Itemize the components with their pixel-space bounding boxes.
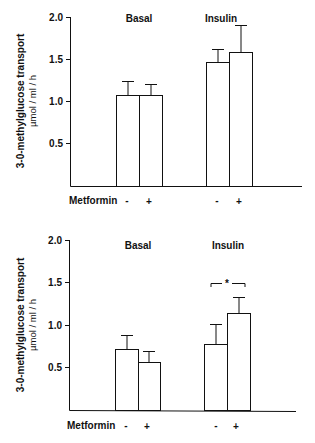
ytick-2.0: 2.0 bbox=[48, 235, 62, 246]
ytick-2.0: 2.0 bbox=[49, 12, 63, 23]
xtick-insulin-plus: + bbox=[236, 196, 242, 207]
y-axis-title: 3-0-methylglucose transport bbox=[15, 257, 26, 392]
x-axis-title: Metformin bbox=[69, 195, 117, 206]
xtick-basal-minus: - bbox=[125, 195, 128, 206]
bottom-insulin-bars bbox=[205, 298, 251, 411]
top-chart-axes bbox=[66, 17, 302, 187]
xtick-insulin-minus: - bbox=[215, 195, 218, 206]
xtick-insulin-minus: - bbox=[214, 420, 217, 431]
top-insulin-bars bbox=[207, 26, 253, 187]
group-label-insulin: Insulin bbox=[205, 13, 237, 24]
y-axis-title: 3-0-methylglucose transport bbox=[15, 33, 26, 168]
bottom-chart-axes bbox=[65, 240, 296, 412]
bottom-basal-bars bbox=[116, 336, 161, 411]
xtick-basal-plus: + bbox=[146, 196, 152, 207]
ytick-1.5: 1.5 bbox=[49, 54, 63, 65]
xtick-basal-plus: + bbox=[144, 421, 150, 432]
ytick-1.5: 1.5 bbox=[48, 277, 62, 288]
y-axis-units: µmol / ml / h bbox=[27, 75, 38, 127]
top-basal-bars bbox=[117, 82, 163, 187]
ytick-0.5: 0.5 bbox=[48, 362, 62, 373]
x-axis-title: Metformin bbox=[67, 420, 115, 431]
ytick-1.0: 1.0 bbox=[49, 96, 63, 107]
xtick-insulin-plus: + bbox=[233, 421, 239, 432]
bottom-chart-labels: 2.0 1.5 1.0 0.5 Basal Insulin * 3-0-meth… bbox=[15, 235, 244, 432]
group-label-basal: Basal bbox=[126, 13, 153, 24]
xtick-basal-minus: - bbox=[124, 420, 127, 431]
top-chart-labels: 2.0 1.5 1.0 0.5 Basal Insulin 3-0-methyl… bbox=[15, 12, 242, 207]
ytick-0.5: 0.5 bbox=[49, 138, 63, 149]
figure: 2.0 1.5 1.0 0.5 Basal Insulin 3-0-methyl… bbox=[0, 0, 315, 443]
y-axis-units: µmol / ml / h bbox=[27, 299, 38, 351]
group-label-basal: Basal bbox=[125, 240, 152, 251]
significance-star: * bbox=[225, 278, 229, 289]
group-label-insulin: Insulin bbox=[212, 240, 244, 251]
ytick-1.0: 1.0 bbox=[48, 320, 62, 331]
